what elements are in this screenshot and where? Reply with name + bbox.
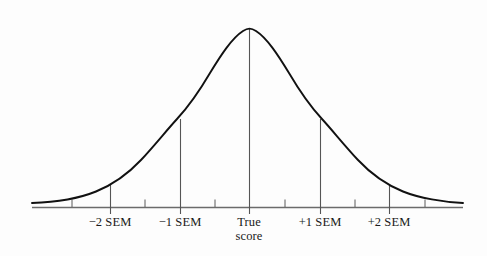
axis-label-plus1-sem: +1 SEM <box>299 216 342 230</box>
axis-label-line1: True <box>237 215 261 229</box>
normal-curve-figure: −2 SEM −1 SEM True score +1 SEM +2 SEM <box>0 0 487 256</box>
sem-marker-group <box>111 29 390 214</box>
minor-tick-group <box>72 200 425 208</box>
axis-label-minus1-sem: −1 SEM <box>159 216 202 230</box>
axis-label-line1: −2 SEM <box>89 215 132 229</box>
axis-label-line2: score <box>236 230 263 244</box>
axis-label-plus2-sem: +2 SEM <box>368 216 411 230</box>
axis-label-minus2-sem: −2 SEM <box>89 216 132 230</box>
gaussian-curve <box>32 29 463 203</box>
axis-label-line1: +1 SEM <box>299 215 342 229</box>
axis-label-true-score: True score <box>236 216 263 243</box>
axis-label-line1: +2 SEM <box>368 215 411 229</box>
axis-label-line1: −1 SEM <box>159 215 202 229</box>
